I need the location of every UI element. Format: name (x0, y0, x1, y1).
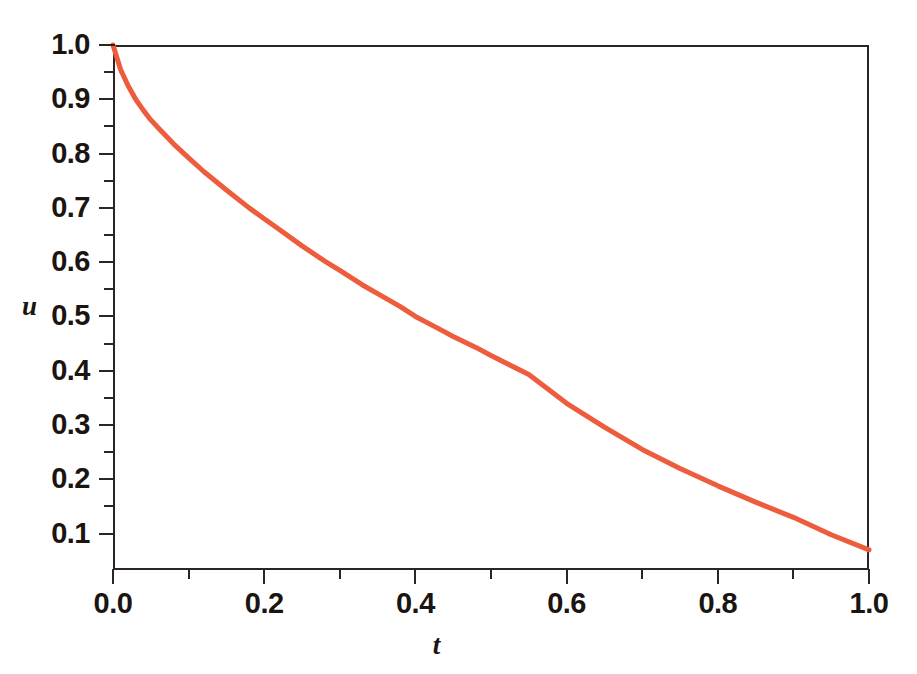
x-tick-label: 0.0 (68, 589, 158, 618)
y-tick-major (99, 424, 115, 426)
x-tick-major (414, 569, 416, 584)
y-tick-major (99, 207, 115, 209)
y-tick-minor (104, 125, 115, 127)
x-tick-minor (641, 569, 643, 579)
y-tick-major (99, 44, 115, 46)
x-tick-minor (188, 569, 190, 579)
chart-figure: 0.10.20.30.40.50.60.70.80.91.00.00.20.40… (0, 0, 917, 674)
y-tick-label: 0.6 (20, 247, 90, 276)
curve-layer (113, 45, 869, 570)
y-tick-label: 1.0 (20, 30, 90, 59)
y-tick-minor (104, 397, 115, 399)
y-tick-minor (104, 451, 115, 453)
x-tick-minor (339, 569, 341, 579)
x-tick-label: 1.0 (824, 589, 914, 618)
y-axis-title: u (22, 291, 37, 322)
y-tick-label: 0.4 (20, 356, 90, 385)
y-tick-major (99, 370, 115, 372)
x-axis-title: t (0, 630, 917, 661)
x-tick-major (717, 569, 719, 584)
y-tick-label: 0.3 (20, 410, 90, 439)
x-tick-major (112, 569, 114, 584)
y-tick-minor (104, 180, 115, 182)
y-tick-minor (104, 288, 115, 290)
y-tick-major (99, 261, 115, 263)
series-line-u (113, 45, 869, 550)
y-tick-label: 0.7 (20, 193, 90, 222)
y-tick-minor (104, 71, 115, 73)
x-tick-label: 0.8 (673, 589, 763, 618)
y-tick-major (99, 315, 115, 317)
y-tick-minor (104, 234, 115, 236)
y-tick-major (99, 533, 115, 535)
x-tick-major (263, 569, 265, 584)
x-tick-label: 0.4 (370, 589, 460, 618)
x-tick-minor (490, 569, 492, 579)
x-tick-label: 0.6 (522, 589, 612, 618)
y-tick-major (99, 98, 115, 100)
y-tick-label: 0.2 (20, 464, 90, 493)
x-axis-title-text: t (433, 630, 441, 660)
x-tick-minor (792, 569, 794, 579)
y-tick-label: 0.9 (20, 84, 90, 113)
y-tick-major (99, 478, 115, 480)
y-tick-minor (104, 343, 115, 345)
y-tick-label: 0.1 (20, 519, 90, 548)
y-tick-minor (104, 505, 115, 507)
y-tick-major (99, 153, 115, 155)
x-tick-major (566, 569, 568, 584)
x-tick-label: 0.2 (219, 589, 309, 618)
y-tick-label: 0.8 (20, 139, 90, 168)
x-tick-major (868, 569, 870, 584)
